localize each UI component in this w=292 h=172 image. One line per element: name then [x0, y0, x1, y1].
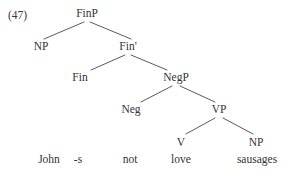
- tree-terminal-t_not: not: [123, 154, 138, 166]
- tree-branch-negp-neg: [141, 86, 172, 102]
- tree-branch-negp-vp: [180, 86, 215, 102]
- tree-node-fin: Fin: [72, 72, 87, 84]
- tree-node-vp: VP: [212, 104, 227, 116]
- tree-node-finp: FinP: [76, 8, 98, 20]
- tree-branch-finp-finbar: [90, 22, 131, 39]
- syntax-tree-figure: (47) FinPNPFin'FinNegPNegVPVNP John-snot…: [0, 0, 292, 172]
- example-number: (47): [8, 10, 27, 22]
- tree-branch-finp-np: [44, 22, 84, 39]
- tree-node-finbar: Fin': [119, 41, 136, 53]
- tree-branch-vp-v: [186, 118, 215, 134]
- tree-node-neg: Neg: [121, 104, 140, 116]
- tree-branch-finbar-fin: [91, 55, 125, 70]
- tree-terminal-t_love: love: [171, 154, 191, 166]
- tree-node-np_subj: NP: [34, 41, 49, 53]
- tree-branch-finbar-negp: [131, 55, 167, 70]
- tree-terminal-t_s: -s: [74, 154, 82, 166]
- tree-terminal-t_john: John: [38, 154, 60, 166]
- tree-node-v: V: [177, 137, 185, 149]
- tree-terminal-t_sausages: sausages: [237, 154, 277, 166]
- tree-branch-vp-np: [223, 118, 253, 134]
- tree-node-negp: NegP: [163, 72, 189, 84]
- tree-node-np_obj: NP: [249, 137, 264, 149]
